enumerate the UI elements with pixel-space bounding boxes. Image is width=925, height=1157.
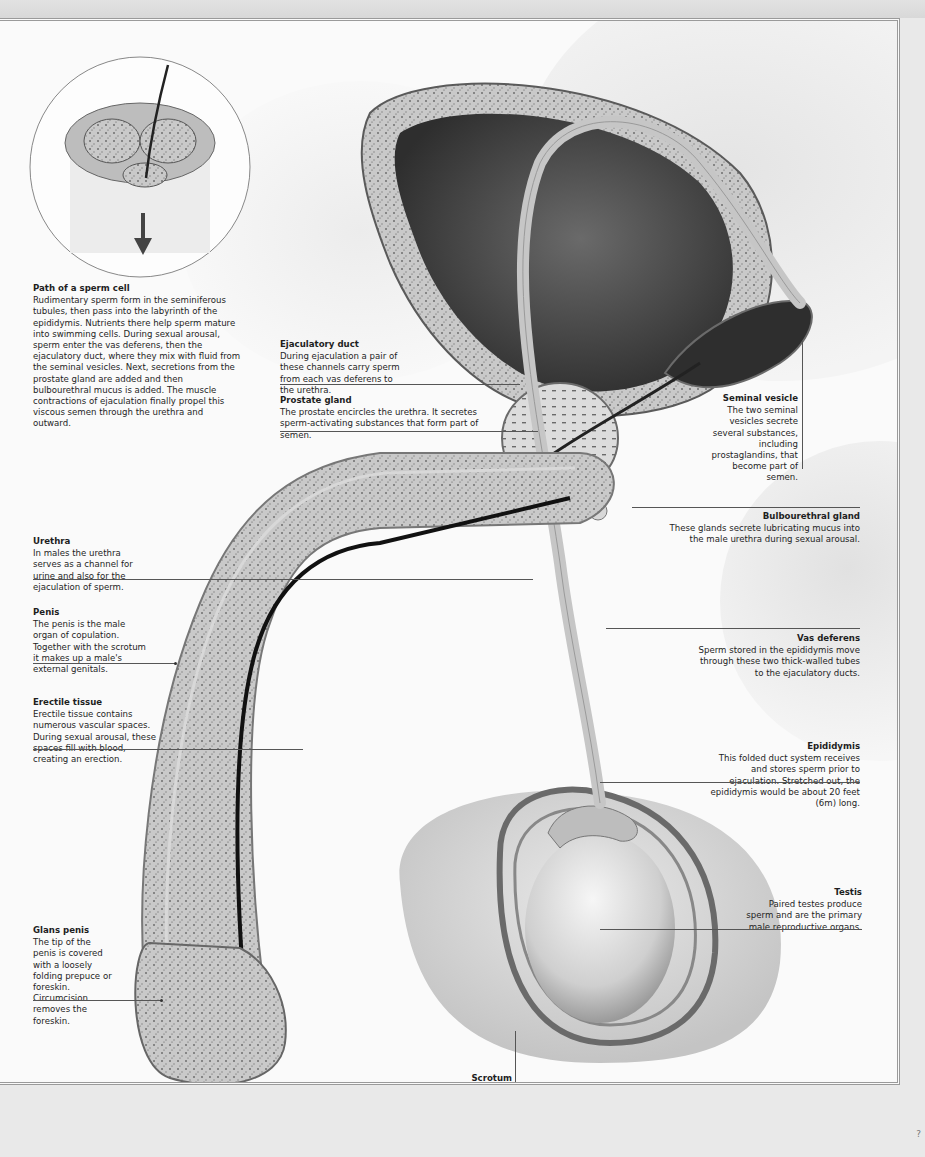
label-testis: Testis Paired testes produce sperm and a… [740, 887, 862, 933]
leader-testis [600, 929, 862, 930]
page-number: ? [916, 1129, 921, 1139]
illustration-frame: Path of a sperm cell Rudimentary sperm f… [0, 18, 900, 1085]
label-prostate-gland: Prostate gland The prostate encircles th… [280, 395, 505, 441]
label-scrotum: Scrotum This external sac at the base of… [362, 1073, 512, 1085]
leader-bulbourethral-gland [632, 507, 860, 508]
testis-shape [525, 833, 675, 1023]
label-bulbourethral-gland: Bulbourethral gland These glands secrete… [660, 511, 860, 546]
leader-vas-deferens [606, 628, 860, 629]
leader-urethra [33, 579, 533, 580]
leader-epididymis [600, 782, 860, 783]
label-glans-penis: Glans penis The tip of the penis is cove… [33, 925, 113, 1027]
leader-seminal-vesicle [802, 341, 803, 469]
leader-penis [33, 663, 175, 664]
leader-ejaculatory-duct [280, 384, 520, 385]
leader-prostate-gland [280, 431, 538, 432]
leader-erectile-tissue [33, 749, 303, 750]
label-seminal-vesicle: Seminal vesicle The two seminal vesicles… [710, 393, 798, 484]
label-ejaculatory-duct: Ejaculatory duct During ejaculation a pa… [280, 339, 400, 396]
leader-scrotum [515, 1031, 516, 1085]
outer-page-band [0, 0, 925, 18]
glans-shape [135, 943, 285, 1085]
label-vas-deferens: Vas deferens Sperm stored in the epididy… [690, 633, 860, 679]
label-erectile-tissue: Erectile tissue Erectile tissue contains… [33, 697, 158, 765]
label-epididymis: Epididymis This folded duct system recei… [710, 741, 860, 809]
label-penis: Penis The penis is the male organ of cop… [33, 607, 151, 675]
label-path-of-sperm-cell: Path of a sperm cell Rudimentary sperm f… [33, 283, 241, 430]
label-urethra: Urethra In males the urethra serves as a… [33, 536, 151, 593]
leader-glans-penis [33, 1000, 161, 1001]
